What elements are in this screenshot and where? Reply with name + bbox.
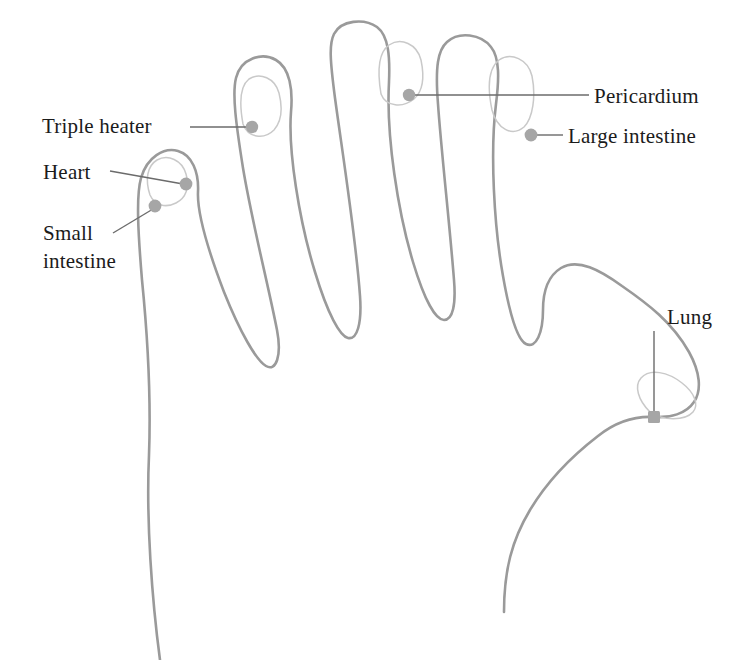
lung-point	[648, 411, 660, 423]
label-large-intestine: Large intestine	[568, 123, 696, 150]
label-small-intestine-line1: Small	[43, 220, 93, 247]
label-pericardium: Pericardium	[594, 83, 699, 110]
triple-heater-point	[246, 121, 258, 133]
heart-leader	[110, 171, 183, 184]
pericardium-point	[403, 89, 415, 101]
diagram-canvas: Triple heater Heart Small intestine Peri…	[0, 0, 753, 660]
label-triple-heater: Triple heater	[42, 113, 152, 140]
heart-point	[180, 178, 193, 191]
large-intestine-point	[525, 129, 538, 142]
hand-outline-path	[138, 22, 699, 660]
small-intestine-leader	[113, 209, 153, 233]
small-intestine-point	[149, 200, 162, 213]
label-lung: Lung	[667, 304, 712, 331]
hand-outline-group	[138, 22, 699, 660]
nail-thumb	[638, 372, 696, 418]
label-small-intestine-line2: intestine	[43, 248, 116, 275]
label-heart: Heart	[43, 159, 91, 186]
